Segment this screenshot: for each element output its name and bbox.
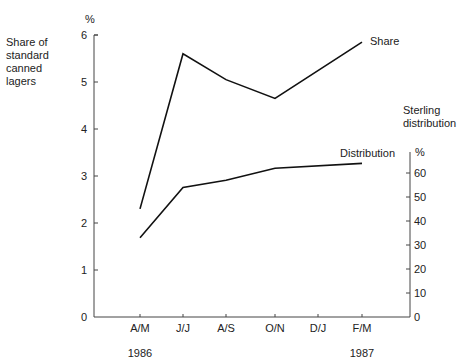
left-axis-tick-label: 4 [81, 123, 87, 135]
left-axis-tick-label: 1 [81, 264, 87, 276]
left-axis-tick-label: 5 [81, 76, 87, 88]
x-axis-tick-label: D/J [310, 322, 327, 334]
x-axis-tick-label: J/J [176, 322, 190, 334]
left-axis-tick-label: 3 [81, 170, 87, 182]
series-line-distribution [140, 163, 362, 237]
left-axis-tick-label: 0 [81, 311, 87, 323]
line-chart: 01234560102030405060A/MJ/JA/SO/ND/JF/M19… [0, 0, 475, 363]
x-axis-tick-label: O/N [265, 322, 285, 334]
left-axis-tick-label: 2 [81, 217, 87, 229]
series-line-share [140, 42, 362, 209]
right-axis-tick-label: 20 [414, 263, 426, 275]
year-label: 1986 [128, 347, 152, 359]
right-axis-tick-label: 30 [414, 239, 426, 251]
left-axis-tick-label: 6 [81, 29, 87, 41]
year-label: 1987 [350, 347, 374, 359]
right-axis-tick-label: 60 [414, 167, 426, 179]
x-axis-tick-label: A/M [130, 322, 150, 334]
right-axis-tick-label: 50 [414, 191, 426, 203]
right-axis-tick-label: 0 [414, 311, 420, 323]
right-axis-tick-label: 40 [414, 215, 426, 227]
x-axis-tick-label: A/S [217, 322, 235, 334]
series-label-distribution: Distribution [340, 147, 395, 159]
series-label-share: Share [370, 35, 399, 47]
x-axis-tick-label: F/M [353, 322, 372, 334]
right-axis-tick-label: 10 [414, 287, 426, 299]
